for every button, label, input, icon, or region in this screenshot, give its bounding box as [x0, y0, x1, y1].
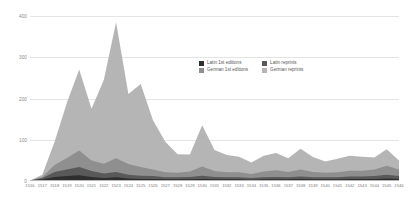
- legend-label: German reprints: [270, 68, 303, 73]
- x-axis-tick-label: 1535: [259, 183, 268, 188]
- x-axis-tick-label: 1523: [111, 183, 120, 188]
- legend-label: Latin 1st editions: [207, 61, 241, 66]
- x-axis-tick-label: 1545: [382, 183, 391, 188]
- x-axis-tick-label: 1521: [87, 183, 96, 188]
- x-axis-tick-label: 1522: [99, 183, 108, 188]
- legend-label: Latin reprints: [270, 61, 297, 66]
- y-axis-tick-label: 0: [3, 179, 27, 184]
- x-axis-tick-label: 1518: [50, 183, 59, 188]
- x-axis-tick-label: 1525: [136, 183, 145, 188]
- x-axis-tick-label: 1534: [247, 183, 256, 188]
- x-axis-tick-label: 1526: [148, 183, 157, 188]
- plot-area: [30, 16, 399, 181]
- stacked-area-chart: 0100200300400 15161517151815191520152115…: [0, 0, 411, 205]
- x-axis-tick-label: 1529: [185, 183, 194, 188]
- x-axis-tick-label: 1543: [357, 183, 366, 188]
- legend-swatch-icon: [199, 61, 204, 66]
- x-axis-tick-label: 1544: [370, 183, 379, 188]
- y-axis-tick-label: 100: [3, 137, 27, 142]
- y-axis-tick-label: 400: [3, 14, 27, 19]
- x-axis-tick-label: 1538: [296, 183, 305, 188]
- x-axis-tick-label: 1532: [222, 183, 231, 188]
- x-axis-tick-label: 1516: [25, 183, 34, 188]
- x-axis-tick-label: 1520: [75, 183, 84, 188]
- x-axis-baseline: [30, 180, 399, 181]
- x-axis-tick-label: 1537: [284, 183, 293, 188]
- legend-item[interactable]: German reprints: [262, 68, 303, 73]
- x-axis-tick-label: 1542: [345, 183, 354, 188]
- chart-legend: Latin 1st editionsLatin reprintsGerman 1…: [196, 59, 306, 75]
- legend-swatch-icon: [262, 68, 267, 73]
- legend-item[interactable]: German 1st editions: [199, 68, 248, 73]
- x-axis-tick-label: 1528: [173, 183, 182, 188]
- legend-item[interactable]: Latin reprints: [262, 61, 303, 66]
- x-axis-tick-label: 1517: [38, 183, 47, 188]
- x-axis: 1516151715181519152015211522152315241525…: [30, 183, 399, 195]
- area-series-group: [30, 16, 399, 181]
- legend-swatch-icon: [199, 68, 204, 73]
- legend-label: German 1st editions: [207, 68, 248, 73]
- x-axis-tick-label: 1519: [62, 183, 71, 188]
- x-axis-tick-label: 1536: [271, 183, 280, 188]
- x-axis-tick-label: 1531: [210, 183, 219, 188]
- x-axis-tick-label: 1524: [124, 183, 133, 188]
- legend-item[interactable]: Latin 1st editions: [199, 61, 248, 66]
- x-axis-tick-label: 1541: [333, 183, 342, 188]
- x-axis-tick-label: 1539: [308, 183, 317, 188]
- x-axis-tick-label: 1546: [394, 183, 403, 188]
- x-axis-tick-label: 1540: [321, 183, 330, 188]
- legend-swatch-icon: [262, 61, 267, 66]
- x-axis-tick-label: 1527: [161, 183, 170, 188]
- x-axis-tick-label: 1533: [234, 183, 243, 188]
- y-axis-tick-label: 200: [3, 96, 27, 101]
- x-axis-tick-label: 1530: [198, 183, 207, 188]
- y-axis-tick-label: 300: [3, 55, 27, 60]
